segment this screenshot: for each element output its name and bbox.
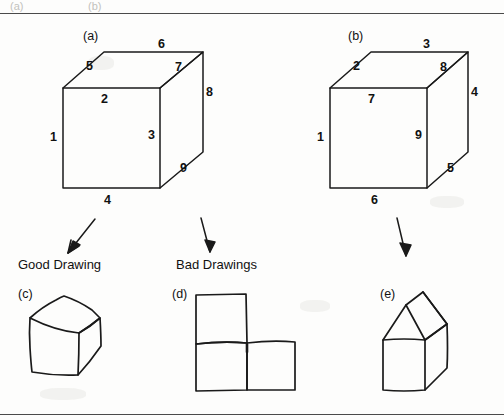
cube-a-edge-label-5: 5 bbox=[86, 60, 93, 73]
cube-b-edge-label-8: 8 bbox=[440, 61, 447, 74]
cube-a-edge-label-3: 3 bbox=[148, 129, 155, 142]
caption-bad-drawings: Bad Drawings bbox=[176, 258, 257, 271]
cube-a-edge-label-2: 2 bbox=[101, 93, 108, 106]
panel-letter-e: (e) bbox=[380, 288, 395, 301]
cube-b-edge-label-3: 3 bbox=[423, 38, 430, 51]
cube-b-edge-label-4: 4 bbox=[471, 86, 478, 99]
panel-letter-b: (b) bbox=[348, 30, 363, 43]
cube-b-front-face bbox=[330, 88, 427, 188]
drawing-c bbox=[30, 296, 102, 375]
cube-a-edge-label-6: 6 bbox=[158, 38, 165, 51]
cube-b-edge-label-5: 5 bbox=[447, 162, 454, 175]
cube-b-edge-label-7: 7 bbox=[368, 93, 375, 106]
arrow-bad-e bbox=[397, 218, 411, 256]
figure-linework bbox=[0, 0, 504, 420]
cube-a-front-face bbox=[63, 88, 160, 188]
caption-good-drawing: Good Drawing bbox=[18, 258, 101, 271]
cube-a-edge-label-9: 9 bbox=[180, 162, 187, 175]
drawing-d bbox=[196, 294, 295, 391]
figure-page: (a) (b) bbox=[0, 0, 504, 420]
panel-letter-a: (a) bbox=[83, 30, 98, 43]
cube-a-edge-label-8: 8 bbox=[206, 86, 213, 99]
cube-b-edge-label-1: 1 bbox=[317, 131, 324, 144]
panel-letter-d: (d) bbox=[172, 288, 187, 301]
cube-a-edge-label-1: 1 bbox=[50, 131, 57, 144]
drawing-e bbox=[383, 292, 448, 391]
arrow-good bbox=[68, 219, 95, 253]
cube-a-edge-label-7: 7 bbox=[175, 61, 182, 74]
arrow-bad-d bbox=[201, 218, 215, 252]
cube-b-edge-label-9: 9 bbox=[415, 129, 422, 142]
cube-a-edge-label-4: 4 bbox=[104, 194, 111, 207]
panel-letter-c: (c) bbox=[18, 288, 33, 301]
cube-b-edge-label-6: 6 bbox=[371, 194, 378, 207]
cube-b-edge-label-2: 2 bbox=[353, 60, 360, 73]
